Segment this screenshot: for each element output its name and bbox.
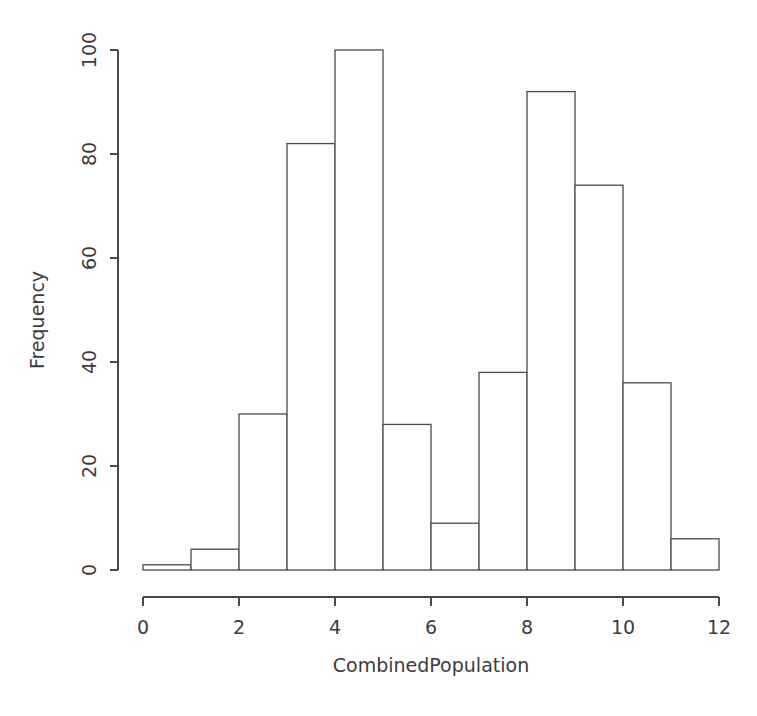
bar-bin-11-12 xyxy=(671,539,719,570)
y-axis-tick-label-20: 20 xyxy=(78,454,100,478)
bar-bin-4-5 xyxy=(335,50,383,570)
bar-bin-3-4 xyxy=(287,144,335,570)
x-axis-tick-label-6: 6 xyxy=(425,616,437,638)
x-axis-tick-label-8: 8 xyxy=(521,616,533,638)
y-axis-tick-label-100: 100 xyxy=(78,32,100,68)
bar-bin-8-9 xyxy=(527,92,575,570)
bar-bin-9-10 xyxy=(575,185,623,570)
bar-bin-2-3 xyxy=(239,414,287,570)
x-axis-tick-label-10: 10 xyxy=(611,616,635,638)
x-axis-title: CombinedPopulation xyxy=(333,654,529,676)
x-axis-tick-label-12: 12 xyxy=(707,616,731,638)
x-axis-tick-label-0: 0 xyxy=(137,616,149,638)
bar-bin-6-7 xyxy=(431,523,479,570)
y-axis-title: Frequency xyxy=(26,271,48,369)
x-axis-tick-label-2: 2 xyxy=(233,616,245,638)
histogram-svg: 100 80 60 40 20 0 Frequency xyxy=(0,0,757,716)
bar-bin-0-1 xyxy=(143,565,191,570)
bar-bin-7-8 xyxy=(479,372,527,570)
x-axis-tick-label-4: 4 xyxy=(329,616,341,638)
bar-bin-10-11 xyxy=(623,383,671,570)
y-axis-tick-label-0: 0 xyxy=(78,564,100,576)
y-axis-tick-label-40: 40 xyxy=(78,350,100,374)
histogram-plot: 100 80 60 40 20 0 Frequency xyxy=(0,0,757,716)
bar-bin-1-2 xyxy=(191,549,239,570)
y-axis-tick-label-80: 80 xyxy=(78,142,100,166)
y-axis-tick-label-60: 60 xyxy=(78,246,100,270)
bar-bin-5-6 xyxy=(383,424,431,570)
